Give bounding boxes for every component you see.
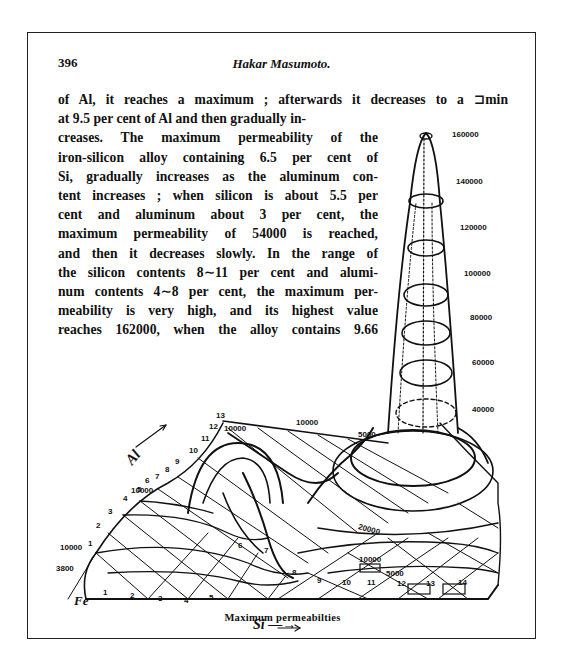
al-tick: 5 bbox=[137, 485, 141, 494]
text-line: meability is very high, and its highest … bbox=[58, 301, 378, 320]
contour-label: 10000 bbox=[60, 543, 82, 552]
si-tick: 12 bbox=[397, 579, 406, 588]
si-tick: 10 bbox=[342, 578, 351, 587]
axis-label-al: Al bbox=[122, 447, 144, 469]
si-tick: 14 bbox=[458, 578, 467, 587]
al-tick: 4 bbox=[123, 494, 127, 503]
scale-label-60000: 60000 bbox=[472, 358, 494, 367]
si-tick: 4 bbox=[184, 596, 188, 605]
al-tick: 1 bbox=[88, 539, 92, 548]
text-line: maximum permeability of 54000 is reached… bbox=[58, 224, 378, 243]
contour-label: 10000 bbox=[296, 418, 318, 427]
contour-label: 10000 bbox=[224, 424, 246, 433]
si-tick: 11 bbox=[367, 578, 375, 587]
body-text: of Al, it reaches a maximum ; afterwards… bbox=[58, 90, 508, 340]
contour-label: 3800 bbox=[56, 564, 74, 573]
text-line: creases. The maximum permeability of the bbox=[58, 128, 378, 147]
al-tick: 2 bbox=[96, 521, 100, 530]
figure-caption: Maximum permeabilties bbox=[28, 612, 537, 623]
al-tick: 8 bbox=[165, 465, 169, 474]
axis-label-si: Si —→ bbox=[253, 617, 296, 633]
si-tick: 3 bbox=[158, 594, 162, 603]
text-line: the silicon contents 8∼11 per cent and a… bbox=[58, 263, 378, 282]
si-tick: 5 bbox=[209, 593, 213, 602]
text-line: and then it decreases slowly. In the ran… bbox=[58, 244, 378, 263]
si-tick: 6 bbox=[238, 541, 242, 550]
al-tick: 12 bbox=[209, 422, 218, 431]
text-line: reaches 162000, when the alloy contains … bbox=[58, 320, 378, 339]
text-line: cent and aluminum about 3 per cent, the bbox=[58, 205, 378, 224]
al-tick: 9 bbox=[175, 457, 179, 466]
contour-label: 10000 bbox=[359, 555, 381, 564]
page-frame: 396 Hakar Masumoto. of Al, it reaches a … bbox=[27, 32, 536, 639]
al-tick: 6 bbox=[145, 476, 149, 485]
si-tick: 1 bbox=[103, 588, 107, 597]
al-tick: 13 bbox=[216, 411, 225, 420]
al-tick: 7 bbox=[155, 472, 159, 481]
si-tick: 13 bbox=[426, 579, 435, 588]
scale-label-40000: 40000 bbox=[472, 405, 494, 414]
text-line: iron-silicon alloy containing 6.5 per ce… bbox=[58, 148, 378, 167]
al-tick: 3 bbox=[108, 507, 112, 516]
si-tick: 8 bbox=[292, 568, 296, 577]
origin-label-fe: Fe bbox=[74, 593, 88, 609]
text-line: num contents 4∼8 per cent, the maximum p… bbox=[58, 282, 378, 301]
contour-label: 5000 bbox=[386, 569, 404, 578]
si-tick: 2 bbox=[130, 591, 134, 600]
al-tick: 11 bbox=[201, 434, 209, 443]
text-line: of Al, it reaches a maximum ; afterwards… bbox=[58, 90, 508, 109]
si-tick: 9 bbox=[317, 576, 321, 585]
al-tick: 10 bbox=[189, 446, 198, 455]
text-line: at 9.5 per cent of Al and then gradually… bbox=[58, 109, 378, 128]
si-tick: 7 bbox=[264, 546, 268, 555]
contour-label: 10000 bbox=[131, 486, 153, 495]
text-line: Si, gradually increases as the aluminum … bbox=[58, 167, 378, 186]
text-line: tent increases ; when silicon is about 5… bbox=[58, 186, 378, 205]
running-head: Hakar Masumoto. bbox=[28, 56, 535, 72]
contour-label: 5000 bbox=[358, 430, 376, 439]
contour-label: 20000 bbox=[357, 522, 381, 536]
